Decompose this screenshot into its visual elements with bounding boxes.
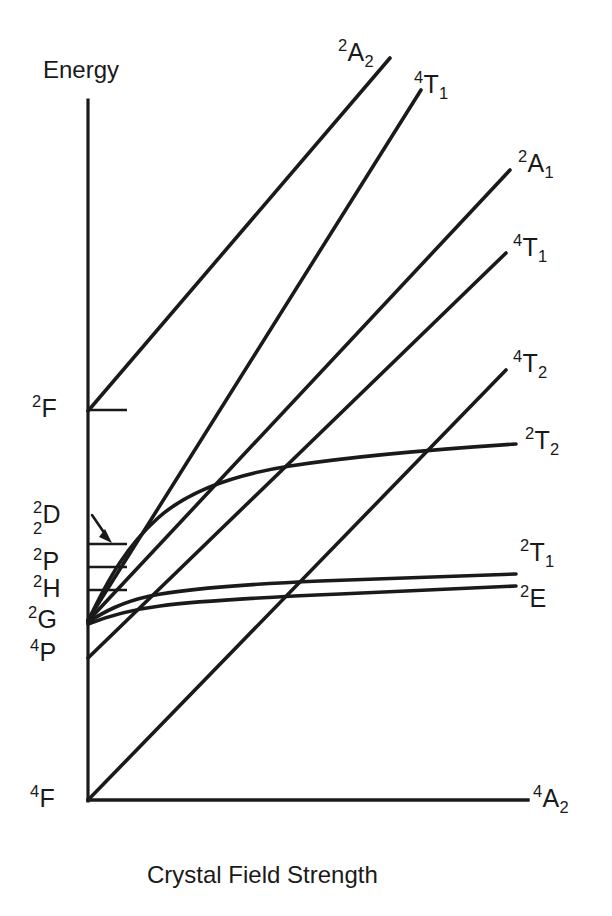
2d-pointer-arrow: [92, 515, 112, 543]
state-label-2A1: 2A1: [518, 151, 553, 176]
term-letter: P: [42, 547, 58, 575]
state-letter: T: [423, 70, 438, 98]
state-multiplicity: 2: [520, 536, 529, 554]
term-multiplicity: 2: [28, 603, 37, 621]
term-letter: F: [39, 784, 54, 812]
state-subscript: 1: [545, 552, 554, 570]
curve-2A1: [88, 170, 510, 621]
term-label-2G: 2G: [28, 607, 57, 632]
state-label-2A2: 2A2: [338, 40, 373, 65]
state-label-2E: 2E: [520, 586, 546, 611]
x-axis-title: Crystal Field Strength: [147, 861, 378, 889]
state-label-4T1-upper: 4T1: [414, 72, 448, 97]
state-letter: T: [522, 233, 537, 261]
term-multiplicity: 4: [30, 782, 39, 800]
state-label-4T1-lower: 4T1: [513, 235, 547, 260]
term-label-2H: 2H: [33, 576, 60, 601]
state-letter: T: [522, 349, 537, 377]
state-label-4T2: 4T2: [513, 351, 547, 376]
state-subscript: 2: [364, 52, 373, 70]
state-letter: A: [347, 38, 363, 66]
correlation-curves: [88, 58, 516, 800]
state-letter: T: [529, 538, 544, 566]
state-letter: A: [527, 149, 543, 177]
term-multiplicity: 4: [30, 636, 39, 654]
term-letter: F: [41, 394, 56, 422]
state-multiplicity: 2: [338, 36, 347, 54]
term-multiplicity: 2: [32, 392, 41, 410]
state-subscript: 1: [538, 247, 547, 265]
state-subscript: 2: [538, 363, 547, 381]
term-label-4P: 4P: [30, 640, 56, 665]
state-multiplicity: 2: [525, 424, 534, 442]
term-letter: P: [39, 638, 55, 666]
tanabe-sugano-figure: Energy Crystal Field Strength 2F 2D 2 2P…: [0, 0, 612, 916]
term-label-2P: 2P: [33, 549, 59, 574]
state-label-2T2: 2T2: [525, 428, 559, 453]
state-label-2T1: 2T1: [520, 540, 554, 565]
state-letter: E: [529, 584, 545, 612]
state-subscript: 1: [544, 163, 553, 181]
state-subscript: 2: [550, 440, 559, 458]
curve-2A2: [88, 58, 390, 411]
curve-2E: [88, 586, 516, 624]
term-label-4F: 4F: [30, 786, 55, 811]
axis-lines: [88, 100, 528, 801]
state-multiplicity: 4: [533, 782, 542, 800]
plot-canvas: [0, 0, 612, 916]
state-multiplicity: 4: [414, 68, 423, 86]
term-label-2F: 2F: [32, 396, 57, 421]
state-multiplicity: 4: [513, 347, 522, 365]
state-multiplicity: 2: [518, 147, 527, 165]
term-letter: D: [42, 500, 60, 528]
state-multiplicity: 2: [520, 582, 529, 600]
term-letter: H: [42, 574, 60, 602]
term-multiplicity: 2: [33, 519, 42, 537]
term-multiplicity: 2: [33, 572, 42, 590]
state-letter: T: [534, 426, 549, 454]
state-label-4A2: 4A2: [533, 786, 568, 811]
state-subscript: 2: [559, 798, 568, 816]
term-letter: G: [37, 605, 56, 633]
term-multiplicity: 2: [33, 498, 42, 516]
state-multiplicity: 4: [513, 231, 522, 249]
state-subscript: 1: [439, 84, 448, 102]
term-multiplicity: 2: [33, 545, 42, 563]
curve-4T2: [88, 370, 506, 800]
y-axis-title: Energy: [43, 56, 119, 84]
state-letter: A: [542, 784, 558, 812]
